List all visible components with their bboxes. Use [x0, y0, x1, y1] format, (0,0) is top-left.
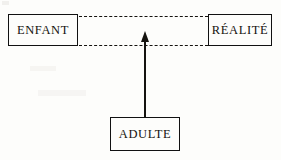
node-adulte[interactable]: ADULTE: [110, 117, 180, 151]
diagram-canvas: ENFANT RÉALITÉ ADULTE: [0, 0, 281, 160]
node-realite-label: RÉALITÉ: [212, 24, 268, 37]
node-enfant-label: ENFANT: [17, 24, 69, 37]
scan-artifact: [38, 90, 86, 96]
scan-artifact: [30, 66, 56, 71]
node-adulte-label: ADULTE: [119, 128, 171, 141]
dashed-connector-top: [79, 16, 208, 17]
node-enfant[interactable]: ENFANT: [8, 14, 78, 46]
arrow-shaft-adulte: [144, 40, 146, 117]
node-realite[interactable]: RÉALITÉ: [208, 14, 272, 46]
arrow-head-up-icon: [141, 31, 149, 42]
scan-artifact: [2, 1, 9, 5]
